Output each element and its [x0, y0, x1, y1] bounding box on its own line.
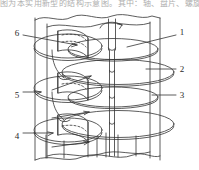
shaft-seg-2-cap [110, 97, 115, 99]
helix-turn-1-outer [34, 34, 102, 58]
disk-1-ellipse [68, 39, 158, 60]
disk-4-pointer-line [52, 142, 89, 147]
callout-label-4: 4 [15, 131, 20, 141]
disk-1 [68, 39, 158, 62]
callout-label-3: 3 [180, 90, 185, 100]
leader-4-head [48, 132, 53, 136]
figure-container: 图为本实用新型的结构示意图。其中：轴、盘片、螺旋叶片 [0, 0, 199, 170]
leader-6 [23, 35, 77, 45]
vessel-back-top-edge [47, 23, 150, 27]
callout-label-1: 1 [180, 27, 185, 37]
vessel-back-bottom-edge [47, 152, 150, 156]
shaft-seg-3-cap [110, 123, 115, 125]
leader-6-head [72, 43, 78, 47]
disk-4-ellipse [62, 111, 174, 138]
disk-3-ellipse [68, 87, 158, 107]
shaft-seg-1-cap [110, 71, 115, 73]
leader-1 [127, 35, 176, 47]
helix-turn-2-hidden-edge [62, 83, 86, 89]
callout-label-6: 6 [15, 28, 20, 38]
callout-label-2: 2 [180, 64, 185, 74]
helix-turn-3-hidden-edge [62, 125, 86, 131]
technical-drawing: 1 2 3 4 5 6 [0, 0, 199, 170]
rotation-arrow-head [118, 24, 123, 29]
callout-label-5: 5 [15, 90, 20, 100]
disk-2 [62, 60, 174, 87]
vessel-top-broken-edge [35, 15, 160, 20]
